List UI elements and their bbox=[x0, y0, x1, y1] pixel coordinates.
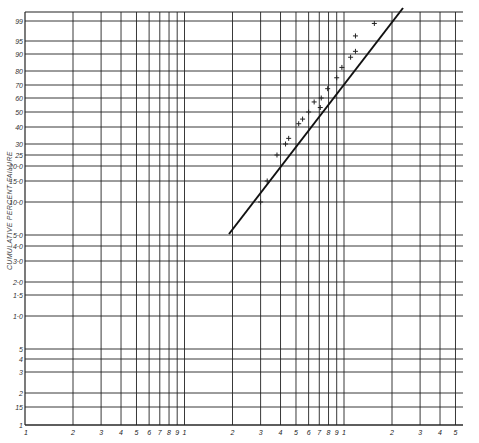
y-tick-label: 2·0 bbox=[12, 279, 23, 286]
y-tick-label: 1·0 bbox=[13, 313, 23, 320]
y-tick-label: 70 bbox=[15, 82, 23, 89]
grid-lines bbox=[25, 12, 463, 425]
y-tick-label: 80 bbox=[15, 68, 23, 75]
x-tick-label: 4 bbox=[119, 429, 123, 436]
data-point-marker bbox=[325, 86, 330, 91]
x-tick-label: 6 bbox=[147, 429, 151, 436]
x-tick-label: 5 bbox=[135, 429, 139, 436]
data-point-marker bbox=[353, 49, 358, 54]
y-tick-label: 95 bbox=[15, 38, 23, 45]
y-tick-label: 1·5 bbox=[13, 292, 23, 299]
x-tick-label: 1 bbox=[183, 429, 187, 436]
y-tick-label: 99 bbox=[15, 18, 23, 25]
data-point-marker bbox=[312, 99, 317, 104]
x-tick-label: 9 bbox=[175, 429, 179, 436]
y-tick-label: 50 bbox=[15, 109, 23, 116]
x-tick-label: 1 bbox=[24, 429, 28, 436]
y-axis-title: CUMULATIVE PERCENT FAILURE bbox=[6, 151, 13, 270]
y-tick-label: 40 bbox=[15, 124, 23, 131]
x-tick-label: 5 bbox=[294, 429, 298, 436]
x-tick-label: 1 bbox=[342, 429, 346, 436]
x-tick-label: 3 bbox=[99, 429, 103, 436]
x-tick-label: 3 bbox=[418, 429, 422, 436]
x-tick-label: 5 bbox=[454, 429, 458, 436]
x-tick-label: 4 bbox=[438, 429, 442, 436]
y-tick-label: 25 bbox=[14, 152, 23, 159]
data-point-marker bbox=[306, 110, 311, 115]
x-tick-label: 7 bbox=[317, 429, 322, 436]
data-point-marker bbox=[300, 117, 305, 122]
y-tick-label: 60 bbox=[15, 95, 23, 102]
y-tick-label: 15 bbox=[15, 404, 23, 411]
y-tick-label: 2 bbox=[18, 390, 23, 397]
data-point-marker bbox=[334, 75, 339, 80]
x-tick-label: 4 bbox=[279, 429, 283, 436]
x-tick-label: 9 bbox=[335, 429, 339, 436]
y-tick-label: 90 bbox=[15, 51, 23, 58]
data-point-marker bbox=[286, 136, 291, 141]
x-tick-label: 7 bbox=[158, 429, 163, 436]
y-tick-label: 30 bbox=[15, 141, 23, 148]
data-point-marker bbox=[296, 121, 301, 126]
x-tick-label: 2 bbox=[70, 429, 75, 436]
data-point-marker bbox=[372, 21, 377, 26]
y-tick-label: 5·0 bbox=[13, 232, 23, 239]
data-point-marker bbox=[348, 55, 353, 60]
y-tick-label: 4·0 bbox=[13, 243, 23, 250]
data-points bbox=[258, 21, 377, 205]
fit-line bbox=[229, 8, 403, 234]
y-tick-label: 5 bbox=[19, 346, 23, 353]
x-tick-labels: 12345678912345678912345 bbox=[24, 429, 457, 436]
y-tick-label: 3 bbox=[19, 369, 23, 376]
data-point-marker bbox=[353, 33, 358, 38]
x-tick-label: 8 bbox=[167, 429, 171, 436]
y-tick-label: 4 bbox=[19, 356, 23, 363]
x-tick-label: 8 bbox=[327, 429, 331, 436]
x-tick-label: 3 bbox=[259, 429, 263, 436]
x-tick-label: 2 bbox=[389, 429, 394, 436]
data-point-marker bbox=[283, 142, 288, 147]
y-tick-label: 3·0 bbox=[13, 258, 23, 265]
x-tick-label: 6 bbox=[307, 429, 311, 436]
y-tick-label: 1 bbox=[19, 422, 23, 429]
data-point-marker bbox=[274, 153, 279, 158]
data-point-marker bbox=[258, 200, 263, 205]
data-point-marker bbox=[318, 105, 323, 110]
fitted-line bbox=[229, 8, 403, 234]
weibull-probability-chart: 9995908070605040302520·015·010·05·04·03·… bbox=[0, 0, 479, 443]
x-tick-label: 2 bbox=[230, 429, 235, 436]
